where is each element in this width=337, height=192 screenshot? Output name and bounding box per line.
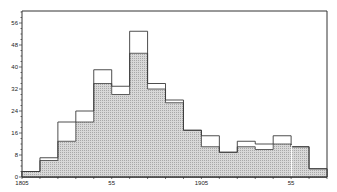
y-tick-label: 16	[11, 130, 18, 136]
x-tick-label: 55	[108, 180, 115, 186]
y-tick-label: 8	[15, 152, 19, 158]
y-tick-label: 40	[11, 64, 18, 70]
y-tick-label: 24	[11, 108, 18, 114]
y-tick-label: 32	[11, 86, 18, 92]
x-tick-label: 1905	[195, 180, 209, 186]
x-tick-label: 1805	[15, 180, 29, 186]
y-tick-label: 48	[11, 42, 18, 48]
y-tick-label: 56	[11, 20, 18, 26]
x-axis: 180555190555	[15, 177, 327, 186]
y-axis: 08162432404856	[11, 12, 22, 180]
histogram-chart: 08162432404856 180555190555	[0, 0, 337, 192]
x-tick-label: 55	[288, 180, 295, 186]
